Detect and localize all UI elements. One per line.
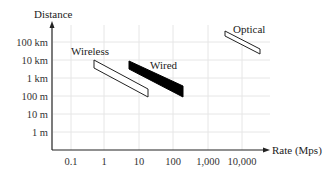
- y-axis-arrow-icon: [50, 21, 55, 28]
- svg-text:1 m: 1 m: [32, 127, 48, 138]
- svg-text:10: 10: [134, 156, 145, 167]
- optical-label: Optical: [233, 23, 265, 35]
- svg-text:10 km: 10 km: [21, 55, 48, 66]
- y-tick-labels: 100 km 10 km 1 km 100 m 10 m 1 m: [16, 37, 48, 138]
- svg-text:1,000: 1,000: [196, 156, 220, 167]
- y-axis-label: Distance: [34, 8, 73, 20]
- x-axis-arrow-icon: [263, 148, 270, 153]
- svg-text:1 km: 1 km: [27, 73, 48, 84]
- svg-text:100 km: 100 km: [16, 37, 48, 48]
- wireless-label: Wireless: [71, 45, 109, 57]
- svg-text:1: 1: [101, 156, 106, 167]
- svg-text:100 m: 100 m: [21, 91, 48, 102]
- grid: [53, 25, 270, 150]
- x-axis-label: Rate (Mps): [272, 144, 322, 157]
- svg-text:0.1: 0.1: [64, 156, 77, 167]
- chart-canvas: Distance Rate (Mps) 100 km 10 km 1 km 10…: [0, 0, 333, 175]
- svg-text:10 m: 10 m: [27, 109, 48, 120]
- wired-label: Wired: [150, 59, 178, 71]
- svg-text:100: 100: [165, 156, 181, 167]
- svg-text:10,000: 10,000: [228, 156, 257, 167]
- x-tick-labels: 0.1 1 10 100 1,000 10,000: [64, 156, 256, 167]
